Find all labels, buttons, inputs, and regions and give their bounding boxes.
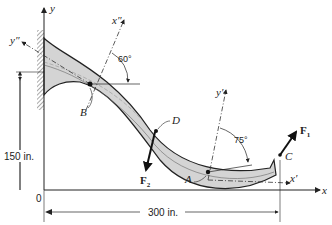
point-B-label: B	[80, 106, 87, 118]
x-axis-label: x	[321, 184, 327, 196]
curved-beam	[44, 38, 276, 189]
point-A	[206, 170, 210, 174]
force-F2-label: F2	[140, 174, 151, 189]
height-dimension-label: 150 in.	[4, 151, 34, 162]
point-A-label: A	[184, 173, 192, 185]
point-D-label: D	[171, 114, 180, 126]
y-axis-label: y	[49, 2, 55, 14]
force-F1-label: F1	[300, 124, 311, 139]
y-prime-label: y′	[215, 86, 224, 98]
y-prime-axis	[208, 90, 226, 180]
y-double-prime-label: y″	[9, 34, 20, 46]
origin-label: 0	[36, 193, 42, 204]
point-B	[88, 82, 93, 87]
beam-diagram: y x 0 x″ y″ 60° B D F2 y′ x′ 75° A C F1 …	[0, 0, 332, 225]
width-dimension-label: 300 in.	[148, 207, 178, 218]
x-prime-label: x′	[289, 172, 298, 184]
angle-75-label: 75°	[234, 135, 248, 145]
point-C-label: C	[285, 150, 293, 162]
x-double-prime-label: x″	[111, 14, 122, 26]
angle-60-label: 60°	[118, 54, 132, 64]
fixed-wall-support	[37, 30, 44, 110]
